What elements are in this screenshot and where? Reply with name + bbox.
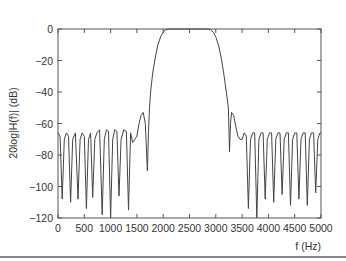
x-tick-label: 2000	[152, 222, 176, 234]
x-tick-label: 5000	[309, 222, 333, 234]
x-tick-label: 1000	[99, 222, 123, 234]
y-tick-label: −60	[35, 118, 53, 130]
x-axis-ticks: 0500100015002000250030003500400045005000	[55, 29, 333, 234]
x-tick-label: 3000	[204, 222, 228, 234]
x-tick-label: 4000	[257, 222, 281, 234]
x-tick-label: 0	[55, 222, 61, 234]
y-tick-label: 0	[47, 23, 53, 35]
y-axis-label: 20log|H(f)| (dB)	[7, 87, 19, 158]
bottom-divider	[0, 256, 346, 258]
x-axis-label: f (Hz)	[295, 240, 321, 252]
y-tick-label: −100	[29, 181, 53, 193]
magnitude-response-line	[58, 29, 321, 218]
y-axis-ticks: 0−20−40−60−80−100−120	[29, 23, 321, 224]
x-tick-label: 2500	[178, 222, 202, 234]
chart-canvas: 0500100015002000250030003500400045005000…	[0, 0, 346, 261]
x-tick-label: 3500	[230, 222, 254, 234]
y-tick-label: −20	[35, 55, 53, 67]
y-tick-label: −40	[35, 86, 53, 98]
y-tick-label: −80	[35, 149, 53, 161]
y-tick-label: −120	[29, 212, 53, 224]
x-tick-label: 500	[76, 222, 94, 234]
x-tick-label: 4500	[283, 222, 307, 234]
x-tick-label: 1500	[125, 222, 149, 234]
